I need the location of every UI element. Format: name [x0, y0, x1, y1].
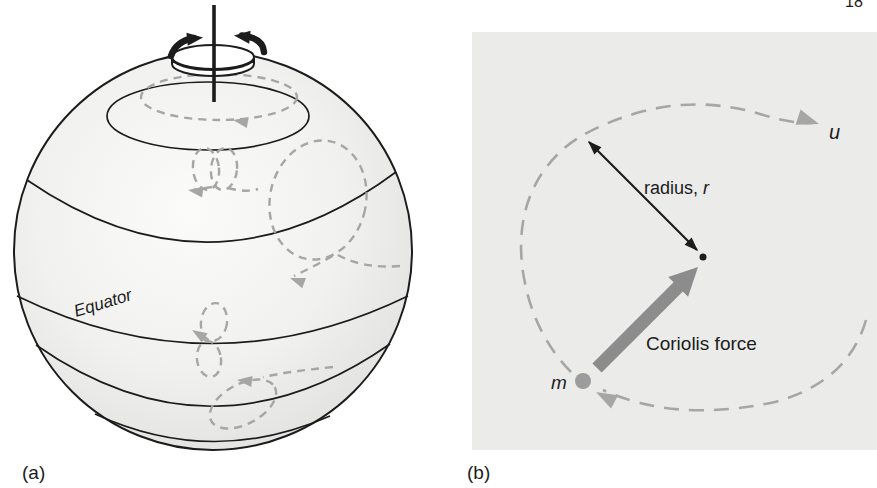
velocity-label: u	[829, 121, 840, 143]
panel-b-tag: (b)	[467, 462, 490, 483]
panel-b-background	[472, 32, 877, 450]
radius-label-text: radius,	[644, 178, 703, 198]
radius-label: radius, r	[644, 178, 710, 198]
radius-symbol: r	[703, 178, 710, 198]
panel-a-tag: (a)	[22, 462, 45, 483]
figure-canvas: Equator (a) u radius, r	[0, 0, 877, 488]
mass-label: m	[551, 372, 567, 393]
page-number-fragment: 18	[845, 0, 863, 10]
rotation-arrow-icon	[186, 31, 203, 46]
mass-dot	[575, 373, 591, 389]
coriolis-figure: Equator (a) u radius, r	[0, 0, 877, 488]
coriolis-force-label: Coriolis force	[646, 333, 757, 354]
rotation-center-dot	[700, 254, 707, 261]
panel-b: u radius, r Coriolis force m (b)	[467, 32, 877, 483]
rotation-arrow-icon	[233, 29, 250, 44]
panel-a: Equator (a)	[14, 5, 412, 483]
rotation-ring	[171, 29, 264, 76]
globe	[14, 52, 412, 450]
